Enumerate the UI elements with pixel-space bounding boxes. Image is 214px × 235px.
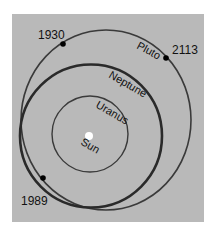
orbit-diagram: 1930 2113 1989 Pluto Neptune Uranus Sun — [0, 0, 214, 235]
marker-2113-dot — [163, 55, 169, 61]
pluto-label: Pluto — [135, 39, 163, 61]
year-label-2113: 2113 — [172, 43, 198, 57]
year-label-1930: 1930 — [38, 28, 65, 42]
marker-1989-dot — [40, 175, 46, 181]
marker-1930-dot — [60, 41, 66, 47]
neptune-label: Neptune — [107, 68, 149, 99]
year-label-1989: 1989 — [21, 194, 48, 208]
sun-label: Sun — [79, 135, 102, 155]
